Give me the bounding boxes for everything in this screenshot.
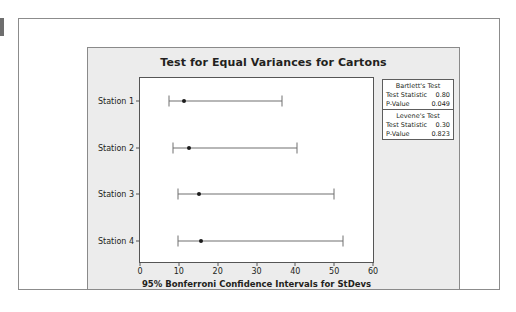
stats-row: Test Statistic0.80 [383, 91, 453, 100]
interval-lower-cap [178, 189, 179, 200]
x-axis-tick [217, 262, 218, 266]
interval-point-marker [199, 239, 203, 243]
page-edge-mark [0, 18, 4, 36]
interval-lower-cap [178, 235, 179, 246]
stats-value: 0.049 [431, 100, 450, 108]
x-axis-tick [373, 262, 374, 266]
x-axis-tick-label: 20 [213, 267, 223, 276]
interval-upper-cap [343, 235, 344, 246]
document-frame: Test for Equal Variances for Cartons 95%… [18, 18, 500, 290]
interval-upper-cap [296, 142, 297, 153]
x-axis-tick [295, 262, 296, 266]
x-axis-tick-label: 30 [251, 267, 261, 276]
interval-upper-cap [281, 96, 282, 107]
x-axis-tick [140, 262, 141, 266]
x-axis-tick [334, 262, 335, 266]
stats-section-heading: Levene's Test [383, 110, 453, 121]
stats-value: 0.80 [436, 91, 450, 99]
stats-value: 0.30 [436, 121, 450, 129]
screenshot-root: Test for Equal Variances for Cartons 95%… [0, 0, 516, 312]
stats-section-1: Bartlett's TestTest Statistic0.80P-Value… [383, 80, 453, 109]
y-axis-tick [136, 101, 140, 102]
stats-legend-box: Bartlett's TestTest Statistic0.80P-Value… [382, 79, 454, 140]
y-axis-label-3: Station 3 [98, 190, 134, 199]
x-axis-tick-label: 60 [368, 267, 378, 276]
interval-upper-cap [334, 189, 335, 200]
y-axis-label-2: Station 2 [98, 143, 134, 152]
x-axis-title: 95% Bonferroni Confidence Intervals for … [142, 279, 371, 289]
stats-label: P-Value [386, 100, 410, 108]
confidence-interval-line [169, 101, 282, 102]
stats-label: P-Value [386, 130, 410, 138]
interval-point-marker [182, 99, 186, 103]
interval-lower-cap [169, 96, 170, 107]
interval-point-marker [187, 146, 191, 150]
stats-value: 0.823 [431, 130, 450, 138]
plot-area: 95% Bonferroni Confidence Intervals for … [139, 77, 374, 263]
y-axis-tick [136, 194, 140, 195]
x-axis-tick-label: 10 [174, 267, 184, 276]
x-axis-tick [256, 262, 257, 266]
stats-label: Test Statistic [386, 121, 427, 129]
chart-title: Test for Equal Variances for Cartons [88, 56, 459, 69]
graph-panel: Test for Equal Variances for Cartons 95%… [87, 47, 460, 290]
interval-lower-cap [173, 142, 174, 153]
interval-point-marker [197, 192, 201, 196]
x-axis-tick-label: 0 [137, 267, 142, 276]
stats-row: P-Value0.049 [383, 100, 453, 109]
y-axis-tick [136, 240, 140, 241]
x-axis-tick [178, 262, 179, 266]
stats-section-2: Levene's TestTest Statistic0.30P-Value0.… [383, 109, 453, 139]
stats-row: Test Statistic0.30 [383, 121, 453, 130]
y-axis-tick [136, 147, 140, 148]
y-axis-label-1: Station 1 [98, 97, 134, 106]
stats-row: P-Value0.823 [383, 130, 453, 139]
x-axis-tick-label: 50 [329, 267, 339, 276]
x-axis-tick-label: 40 [290, 267, 300, 276]
confidence-interval-line [173, 147, 297, 148]
confidence-interval-line [178, 194, 334, 195]
stats-label: Test Statistic [386, 91, 427, 99]
y-axis-label-4: Station 4 [98, 236, 134, 245]
stats-section-heading: Bartlett's Test [383, 80, 453, 91]
